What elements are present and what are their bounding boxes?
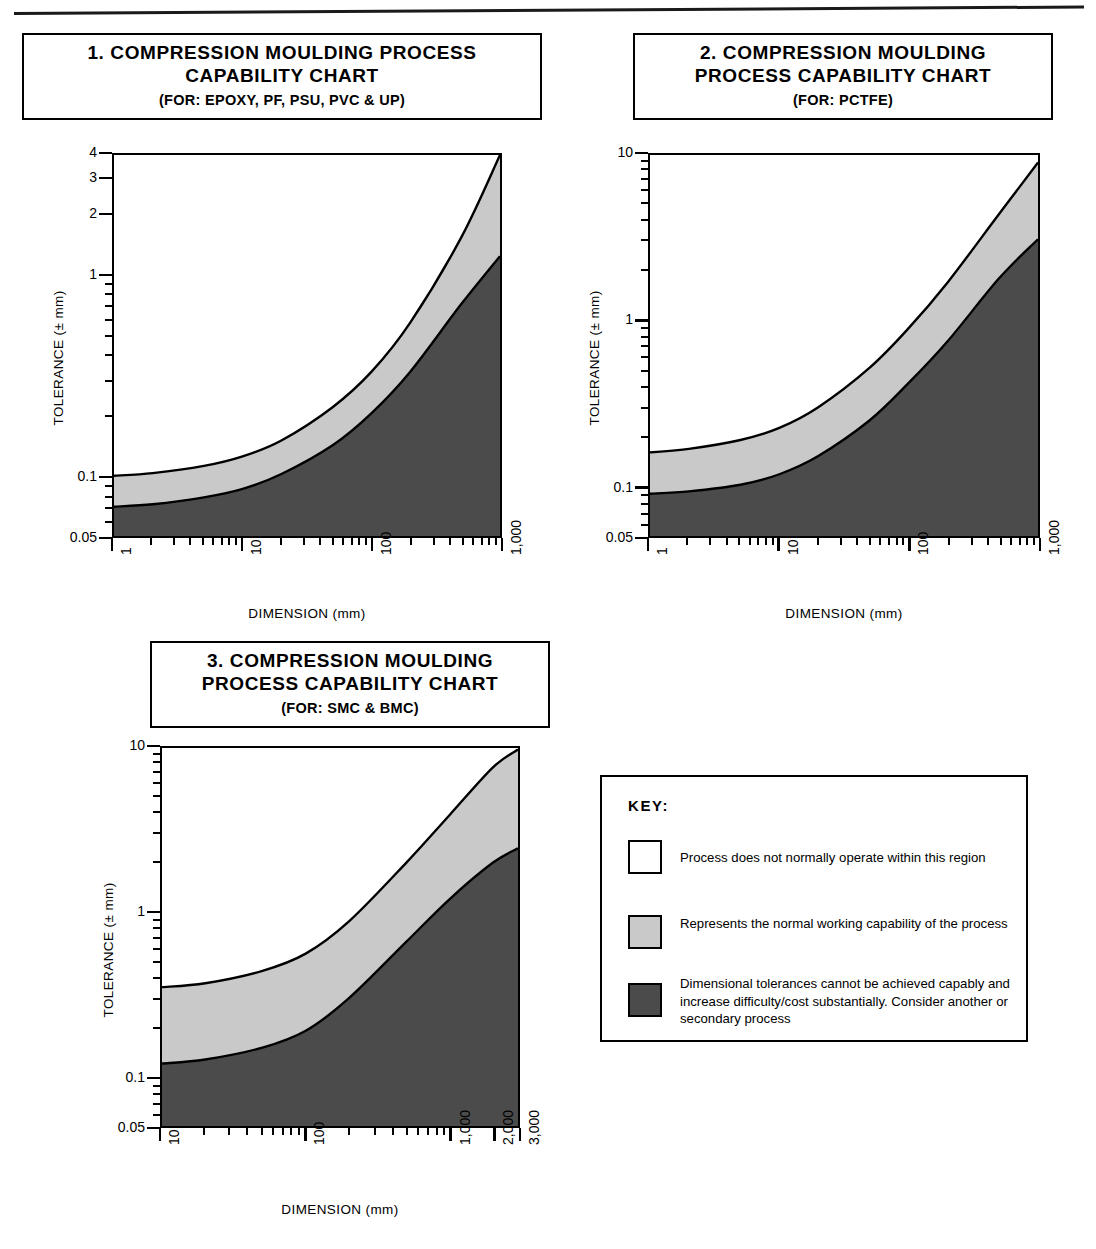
x-tick-label: 1: [118, 547, 134, 555]
x-tick-mark: [1010, 538, 1012, 545]
x-tick-mark: [709, 538, 711, 545]
x-tick-mark: [902, 538, 904, 545]
x-tick-mark: [772, 538, 774, 545]
y-tick-mark: [641, 503, 648, 505]
y-tick-mark: [153, 948, 160, 950]
y-tick-mark: [105, 305, 112, 307]
x-tick-mark: [987, 538, 989, 545]
chart-2-x-axis-label: DIMENSION (mm): [754, 606, 934, 621]
y-tick-label: 4: [42, 144, 97, 160]
chart-1-plot-area: [112, 153, 502, 538]
key-item-light-grey: Represents the normal working capability…: [628, 915, 1008, 955]
y-tick-mark: [641, 269, 648, 271]
key-label-light-grey: Represents the normal working capability…: [680, 915, 1030, 933]
y-tick-label: 1: [578, 311, 633, 327]
y-tick-mark: [641, 513, 648, 515]
x-tick-mark: [443, 1128, 445, 1135]
y-tick-mark: [105, 319, 112, 321]
x-tick-mark: [433, 538, 435, 545]
x-tick-mark: [436, 1128, 438, 1135]
chart-2-y-axis-label: TOLERANCE (± mm): [587, 266, 602, 426]
key-label-white: Process does not normally operate within…: [680, 849, 1030, 867]
x-tick-mark-major: [493, 1128, 495, 1141]
key-swatch-white-icon: [628, 840, 662, 874]
y-tick-mark: [641, 219, 648, 221]
y-tick-mark: [153, 782, 160, 784]
x-tick-mark: [246, 1128, 248, 1135]
x-tick-mark-major: [449, 1128, 451, 1141]
x-tick-label: 1,000: [457, 1110, 473, 1145]
y-tick-mark: [153, 795, 160, 797]
y-tick-mark: [153, 1093, 160, 1095]
y-tick-mark: [153, 1103, 160, 1105]
x-tick-mark: [235, 538, 237, 545]
x-tick-mark: [472, 538, 474, 545]
x-tick-mark: [189, 538, 191, 545]
y-tick-label: 1: [42, 266, 97, 282]
y-tick-mark: [641, 327, 648, 329]
x-tick-mark: [757, 538, 759, 545]
x-tick-mark: [228, 538, 230, 545]
x-tick-mark-major: [519, 1128, 521, 1141]
x-tick-mark: [358, 538, 360, 545]
x-tick-mark: [212, 538, 214, 545]
y-tick-mark-major: [99, 476, 112, 478]
x-tick-mark: [342, 538, 344, 545]
page-root: 1. COMPRESSION MOULDING PROCESS CAPABILI…: [0, 0, 1096, 1249]
x-tick-mark: [869, 538, 871, 545]
x-tick-mark: [1026, 538, 1028, 545]
x-tick-mark: [351, 538, 353, 545]
y-tick-label: 10: [90, 737, 145, 753]
chart-1-regions: [114, 155, 500, 536]
y-tick-mark: [105, 507, 112, 509]
x-tick-mark: [410, 538, 412, 545]
y-tick-mark: [153, 753, 160, 755]
x-tick-mark: [332, 538, 334, 545]
y-tick-mark: [153, 771, 160, 773]
x-tick-mark: [1033, 538, 1035, 545]
chart-2-regions: [650, 155, 1038, 536]
y-tick-mark-major: [147, 1077, 160, 1079]
x-tick-mark: [856, 538, 858, 545]
y-tick-mark: [105, 335, 112, 337]
y-tick-mark-major: [99, 152, 112, 154]
y-tick-mark: [641, 436, 648, 438]
x-tick-mark: [840, 538, 842, 545]
y-tick-mark: [641, 189, 648, 191]
chart-3-plot-area: [160, 746, 520, 1128]
y-tick-mark-major: [99, 274, 112, 276]
y-tick-mark: [153, 977, 160, 979]
y-tick-mark: [105, 521, 112, 523]
y-tick-mark: [153, 811, 160, 813]
y-tick-mark: [153, 761, 160, 763]
x-tick-mark: [282, 1128, 284, 1135]
x-tick-mark: [879, 538, 881, 545]
x-tick-mark-major: [908, 538, 910, 551]
y-tick-mark: [641, 494, 648, 496]
y-tick-mark: [153, 832, 160, 834]
x-tick-label: 100: [378, 532, 394, 555]
x-tick-mark: [948, 538, 950, 545]
x-tick-mark-major: [241, 538, 243, 551]
y-tick-label: 0.1: [42, 468, 97, 484]
chart-2: TOLERANCE (± mm) DIMENSION (mm) 0.050.11…: [540, 0, 1096, 640]
x-tick-label: 100: [915, 532, 931, 555]
x-tick-label: 1,000: [508, 520, 524, 555]
x-tick-label: 1,000: [1046, 520, 1062, 555]
x-tick-mark: [392, 1128, 394, 1135]
y-tick-mark: [105, 354, 112, 356]
key-label-dark-grey: Dimensional tolerances cannot be achieve…: [680, 975, 1030, 1028]
x-tick-mark-major: [111, 538, 113, 551]
x-tick-label: 10: [785, 539, 801, 555]
y-tick-mark: [641, 239, 648, 241]
x-tick-mark: [481, 538, 483, 545]
chart-1-y-axis-label: TOLERANCE (± mm): [51, 266, 66, 426]
x-tick-mark: [303, 538, 305, 545]
x-tick-mark: [1000, 538, 1002, 545]
x-tick-mark: [298, 1128, 300, 1135]
x-tick-label: 2,000: [500, 1110, 516, 1145]
y-tick-mark-major: [635, 486, 648, 488]
y-tick-mark-major: [635, 152, 648, 154]
y-tick-label: 10: [578, 144, 633, 160]
x-tick-mark: [449, 538, 451, 545]
